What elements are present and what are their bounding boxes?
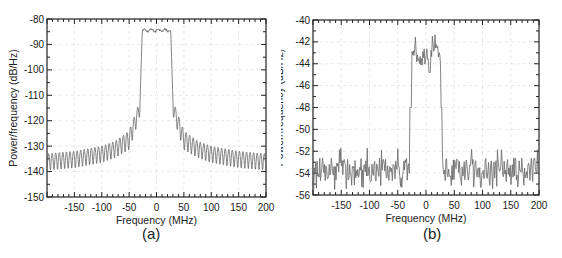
svg-text:150: 150: [230, 202, 247, 213]
svg-text:-50: -50: [122, 202, 137, 213]
svg-text:200: 200: [531, 200, 548, 211]
svg-text:-150: -150: [24, 192, 44, 203]
figure-a: -150-100-50050100150200-150-140-130-120-…: [0, 0, 281, 258]
svg-text:-42: -42: [296, 36, 311, 47]
svg-text:-120: -120: [24, 115, 44, 126]
y-axis-label: Power/frequency (dB/Hz): [281, 49, 285, 166]
svg-text:-100: -100: [92, 202, 112, 213]
figure-b: -150-100-50050100150200-56-54-52-50-48-4…: [281, 0, 562, 258]
svg-text:-44: -44: [296, 58, 311, 69]
svg-text:100: 100: [203, 202, 220, 213]
chart-a: -150-100-50050100150200-150-140-130-120-…: [0, 0, 281, 258]
svg-text:-40: -40: [296, 15, 311, 26]
svg-text:-50: -50: [296, 124, 311, 135]
svg-text:200: 200: [258, 202, 275, 213]
tick-labels: -150-100-50050100150200-150-140-130-120-…: [24, 14, 275, 214]
svg-text:-52: -52: [296, 146, 311, 157]
svg-text:-150: -150: [331, 200, 351, 211]
svg-text:-90: -90: [30, 39, 45, 50]
svg-text:-150: -150: [64, 202, 84, 213]
svg-text:-100: -100: [24, 64, 44, 75]
svg-text:-100: -100: [359, 200, 379, 211]
svg-text:50: 50: [178, 202, 190, 213]
chart-b: -150-100-50050100150200-56-54-52-50-48-4…: [281, 0, 562, 258]
svg-text:-80: -80: [30, 14, 45, 25]
svg-text:100: 100: [474, 200, 491, 211]
svg-text:-54: -54: [296, 168, 311, 179]
svg-text:-56: -56: [296, 190, 311, 201]
svg-text:150: 150: [502, 200, 519, 211]
svg-text:-130: -130: [24, 141, 44, 152]
caption-b: (b): [423, 225, 441, 242]
caption-a: (a): [142, 225, 160, 242]
y-axis-label: Power/frequency (dB/Hz): [7, 49, 19, 166]
svg-text:-110: -110: [25, 90, 45, 101]
svg-text:-48: -48: [296, 102, 311, 113]
svg-text:0: 0: [423, 200, 429, 211]
svg-text:-50: -50: [391, 200, 406, 211]
svg-text:-46: -46: [296, 80, 311, 91]
tick-labels: -150-100-50050100150200-56-54-52-50-48-4…: [296, 15, 548, 212]
svg-text:-140: -140: [24, 166, 44, 177]
grid: [47, 19, 266, 197]
svg-text:50: 50: [449, 200, 461, 211]
svg-text:0: 0: [154, 202, 160, 213]
x-axis-label: Frequency (MHz): [385, 212, 466, 224]
